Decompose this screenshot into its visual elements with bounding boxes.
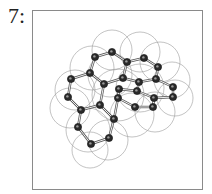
atom-highlight bbox=[69, 77, 71, 79]
atom-highlight bbox=[121, 76, 123, 78]
molecule-diagram bbox=[0, 0, 212, 194]
atom-highlight bbox=[117, 87, 119, 89]
atom-highlight bbox=[66, 95, 68, 97]
atom-highlight bbox=[135, 89, 137, 91]
surface-patch bbox=[72, 132, 108, 168]
atom-highlight bbox=[171, 95, 173, 97]
atom-highlight bbox=[142, 56, 144, 58]
atom-highlight bbox=[88, 71, 90, 73]
atom-highlight bbox=[112, 117, 114, 119]
atom-highlight bbox=[93, 55, 95, 57]
atom-highlight bbox=[171, 85, 173, 87]
atom-highlight bbox=[125, 60, 127, 62]
atom-highlight bbox=[76, 125, 78, 127]
atom-highlight bbox=[154, 77, 156, 79]
atom-highlight bbox=[133, 105, 135, 107]
atom-highlight bbox=[156, 65, 158, 67]
atom-highlight bbox=[102, 82, 104, 84]
atom-highlight bbox=[151, 105, 153, 107]
atom-highlight bbox=[137, 80, 139, 82]
atom-highlight bbox=[107, 136, 109, 138]
atom-highlight bbox=[116, 96, 118, 98]
atom-highlight bbox=[98, 103, 100, 105]
atom-highlight bbox=[79, 108, 81, 110]
atom-highlight bbox=[110, 50, 112, 52]
atom-highlight bbox=[152, 96, 154, 98]
atom-highlight bbox=[89, 142, 91, 144]
